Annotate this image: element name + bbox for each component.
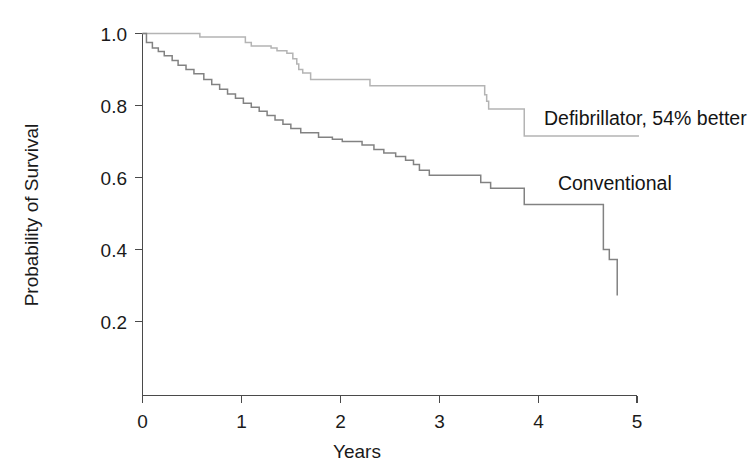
y-tick-labels: 1.0 0.8 0.6 0.4 0.2 (101, 24, 128, 333)
y-tick-label: 1.0 (101, 24, 127, 45)
conventional-series-label: Conventional (558, 172, 672, 194)
y-tick-marks (135, 34, 142, 322)
chart-page: 1.0 0.8 0.6 0.4 0.2 0 1 2 3 4 5 Years Pr… (0, 0, 753, 475)
x-tick-label: 3 (434, 411, 445, 432)
y-tick-label: 0.4 (101, 240, 128, 261)
x-tick-labels: 0 1 2 3 4 5 (137, 411, 642, 432)
x-tick-label: 1 (236, 411, 247, 432)
x-tick-label: 5 (632, 411, 643, 432)
y-tick-label: 0.6 (101, 168, 127, 189)
y-tick-label: 0.2 (101, 312, 127, 333)
defibrillator-series-label: Defibrillator, 54% better (544, 107, 747, 129)
y-tick-label: 0.8 (101, 96, 127, 117)
x-axis-title: Years (333, 441, 381, 462)
x-tick-label: 4 (533, 411, 544, 432)
y-axis-title: Probability of Survival (21, 124, 42, 307)
survival-curve-chart: 1.0 0.8 0.6 0.4 0.2 0 1 2 3 4 5 Years Pr… (0, 0, 753, 475)
x-tick-label: 2 (335, 411, 346, 432)
x-tick-label: 0 (137, 411, 148, 432)
conventional-curve (143, 34, 618, 296)
x-tick-marks (143, 396, 638, 403)
series-curves (143, 34, 639, 296)
